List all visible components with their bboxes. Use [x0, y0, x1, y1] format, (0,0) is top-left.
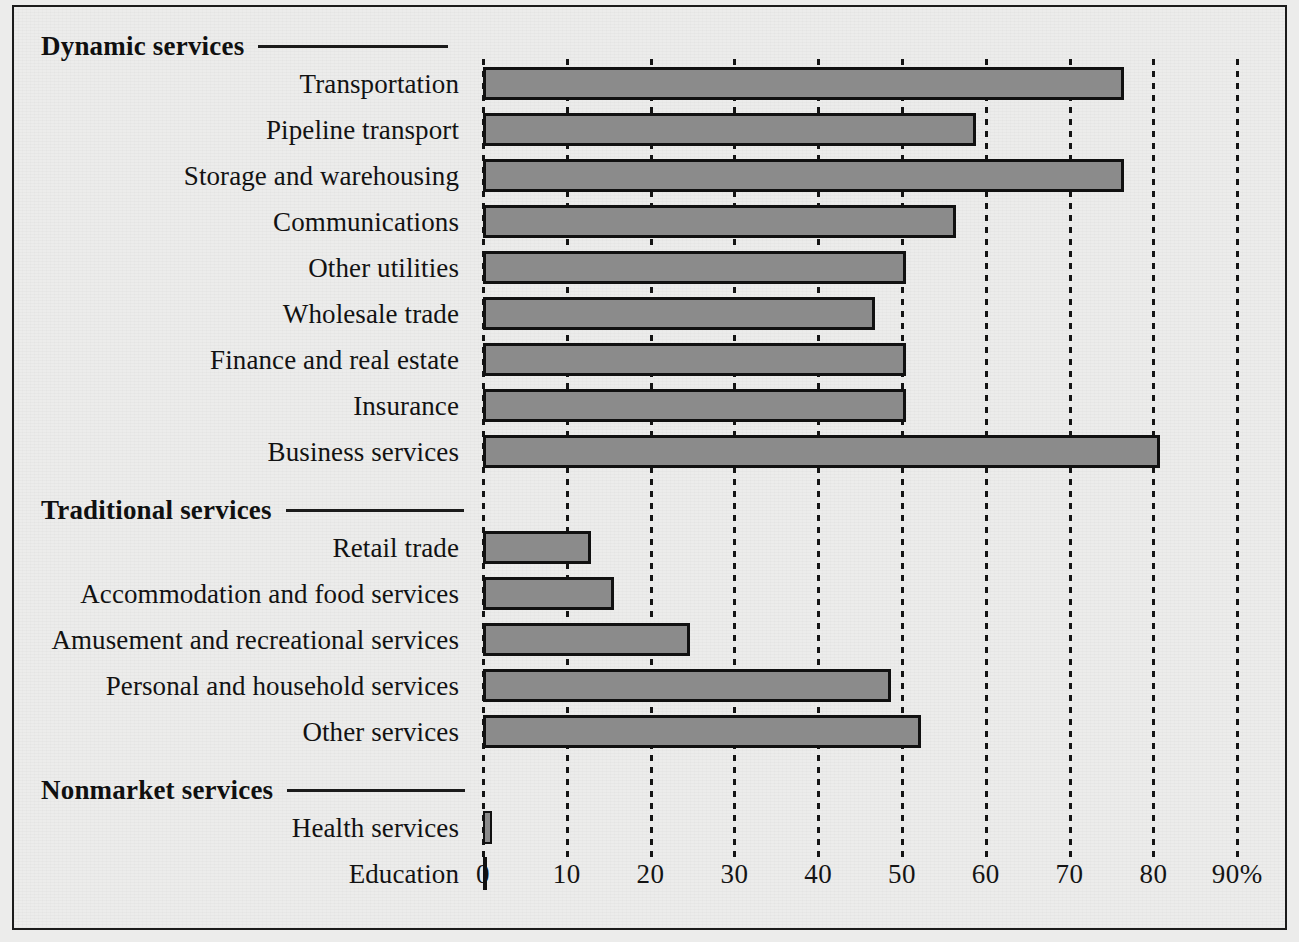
category-label-wrap: Accommodation and food services	[14, 577, 460, 610]
category-label: Insurance	[0, 390, 459, 421]
bar	[483, 343, 906, 376]
bar	[483, 811, 492, 844]
category-label-wrap: Communications	[14, 205, 460, 238]
bar-row: Business services	[14, 435, 1285, 468]
bar-row: Communications	[14, 205, 1285, 238]
group-header-rule	[258, 45, 448, 48]
category-label-wrap: Storage and warehousing	[14, 159, 460, 192]
category-label: Education	[0, 858, 459, 889]
category-label-wrap: Transportation	[14, 67, 460, 100]
bar	[483, 113, 976, 146]
group-header-label: Traditional services	[41, 495, 272, 526]
category-label: Pipeline transport	[0, 114, 459, 145]
bar	[483, 297, 875, 330]
bar	[483, 435, 1160, 468]
category-label: Transportation	[0, 68, 459, 99]
bar	[483, 67, 1124, 100]
group-header-nonmarket-services: Nonmarket services	[41, 775, 465, 805]
category-label: Business services	[0, 436, 459, 467]
category-label-wrap: Retail trade	[14, 531, 460, 564]
category-label-wrap: Insurance	[14, 389, 460, 422]
category-label: Accommodation and food services	[0, 578, 459, 609]
bar-row: Amusement and recreational services	[14, 623, 1285, 656]
group-header-rule	[287, 789, 465, 792]
category-label-wrap: Other services	[14, 715, 460, 748]
chart-frame: 0102030405060708090%Dynamic servicesTran…	[12, 5, 1287, 930]
bar-row: Insurance	[14, 389, 1285, 422]
category-label: Finance and real estate	[0, 344, 459, 375]
category-label: Personal and household services	[0, 670, 459, 701]
category-label: Communications	[0, 206, 459, 237]
group-header-label: Nonmarket services	[41, 775, 273, 806]
bar	[483, 159, 1124, 192]
bar-row: Health services	[14, 811, 1285, 844]
bar	[483, 531, 591, 564]
category-label: Wholesale trade	[0, 298, 459, 329]
category-label: Amusement and recreational services	[0, 624, 459, 655]
group-header-rule	[286, 509, 464, 512]
bar-row: Retail trade	[14, 531, 1285, 564]
bar-row: Finance and real estate	[14, 343, 1285, 376]
bar-row: Personal and household services	[14, 669, 1285, 702]
category-label-wrap: Health services	[14, 811, 460, 844]
bar-row: Pipeline transport	[14, 113, 1285, 146]
bar	[483, 669, 891, 702]
category-label: Other utilities	[0, 252, 459, 283]
category-label-wrap: Amusement and recreational services	[14, 623, 460, 656]
bar	[483, 623, 690, 656]
category-label: Other services	[0, 716, 459, 747]
bar-row: Education	[14, 857, 1285, 890]
category-label: Storage and warehousing	[0, 160, 459, 191]
bar	[483, 857, 487, 890]
category-label-wrap: Personal and household services	[14, 669, 460, 702]
category-label-wrap: Business services	[14, 435, 460, 468]
bar	[483, 251, 906, 284]
category-label: Health services	[0, 812, 459, 843]
category-label-wrap: Education	[14, 857, 460, 890]
bar-row: Storage and warehousing	[14, 159, 1285, 192]
group-header-label: Dynamic services	[41, 31, 244, 62]
group-header-dynamic-services: Dynamic services	[41, 31, 448, 61]
category-label: Retail trade	[0, 532, 459, 563]
category-label-wrap: Other utilities	[14, 251, 460, 284]
bar	[483, 577, 614, 610]
bar	[483, 389, 906, 422]
category-label-wrap: Finance and real estate	[14, 343, 460, 376]
category-label-wrap: Wholesale trade	[14, 297, 460, 330]
bar-row: Wholesale trade	[14, 297, 1285, 330]
bar	[483, 715, 921, 748]
bar-row: Other utilities	[14, 251, 1285, 284]
bar-row: Transportation	[14, 67, 1285, 100]
bar	[483, 205, 956, 238]
bar-row: Other services	[14, 715, 1285, 748]
category-label-wrap: Pipeline transport	[14, 113, 460, 146]
bar-row: Accommodation and food services	[14, 577, 1285, 610]
group-header-traditional-services: Traditional services	[41, 495, 464, 525]
plot-area: 0102030405060708090%Dynamic servicesTran…	[14, 7, 1285, 928]
